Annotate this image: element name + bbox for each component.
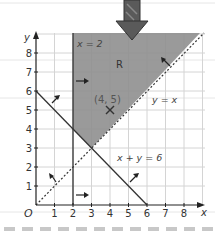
svg-text:4: 4	[107, 208, 113, 219]
svg-text:8: 8	[181, 208, 187, 219]
label-y-equals-x: y = x	[151, 94, 178, 105]
origin-label: O	[24, 207, 33, 220]
svg-text:7: 7	[162, 208, 168, 219]
point-label: (4, 5)	[94, 94, 121, 105]
x-tick-labels: 1 2 3 4 5 6 7 8	[51, 208, 187, 219]
x-axis-label: x	[200, 207, 207, 218]
region-label: R	[116, 59, 123, 70]
svg-text:1: 1	[26, 181, 32, 192]
svg-text:2: 2	[70, 208, 76, 219]
svg-text:8: 8	[26, 48, 32, 59]
y-tick-labels: 1 2 3 4 5 6 7 8	[26, 48, 32, 192]
label-x-equals-2: x = 2	[76, 38, 103, 49]
svg-text:6: 6	[26, 86, 32, 97]
svg-text:4: 4	[26, 124, 32, 135]
svg-text:7: 7	[26, 67, 32, 78]
svg-text:1: 1	[51, 208, 57, 219]
lp-diagram: R (4, 5) x = 2 y = x x + y = 6 y x O 1 2…	[0, 0, 215, 232]
svg-text:2: 2	[26, 162, 32, 173]
y-axis-label: y	[23, 32, 31, 43]
label-x-plus-y-equals-6: x + y = 6	[116, 152, 162, 163]
svg-text:3: 3	[88, 208, 94, 219]
svg-text:6: 6	[144, 208, 150, 219]
svg-text:5: 5	[125, 208, 131, 219]
svg-text:3: 3	[26, 143, 32, 154]
svg-text:5: 5	[26, 105, 32, 116]
